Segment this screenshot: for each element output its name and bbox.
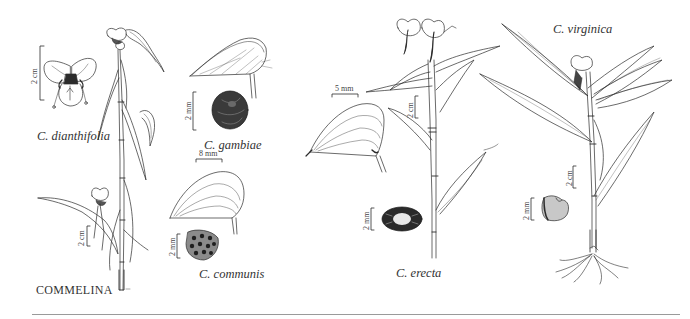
scale-erecta-spathe: 5 mm: [335, 85, 353, 93]
scale-dianthifolia-flower: 2 cm: [31, 68, 39, 84]
gambiae-seed-drawing: [193, 91, 248, 130]
species-label-virginica: C. virginica: [553, 23, 612, 36]
scale-communis-seed: 2 mm: [169, 238, 177, 256]
scale-erecta-plant: 2 cm: [407, 102, 415, 118]
bottom-divider: [32, 314, 680, 315]
gambiae-spathe-drawing: [190, 38, 272, 98]
dianthifolia-plant-drawing: [38, 28, 164, 290]
communis-spathe-drawing: [170, 159, 244, 234]
erecta-plant-scale: [415, 96, 418, 118]
dianthifolia-plant-scale: [87, 226, 90, 246]
virginica-plant-drawing: [480, 24, 672, 284]
communis-seed-drawing: [177, 230, 218, 260]
erecta-spathe-drawing: [306, 94, 386, 172]
species-label-erecta: C. erecta: [396, 267, 441, 280]
botanical-plate: C. dianthifolia C. gambiae C. communis C…: [0, 0, 690, 319]
genus-label: COMMELINA: [36, 284, 113, 296]
scale-gambiae-seed: 2 mm: [185, 102, 193, 120]
species-label-communis: C. communis: [199, 268, 264, 281]
erecta-seed-drawing: [371, 207, 422, 231]
scale-virginica-plant: 2 cm: [566, 170, 574, 186]
virginica-seed-drawing: [531, 196, 569, 221]
scale-communis-spathe: 8 mm: [199, 150, 217, 158]
scale-erecta-seed: 2 mm: [363, 212, 371, 230]
scale-virginica-seed: 2 mm: [523, 202, 531, 220]
species-label-dianthifolia: C. dianthifolia: [37, 130, 110, 143]
dianthifolia-flower-drawing: [40, 46, 96, 108]
illustration-drawings: [0, 0, 690, 319]
scale-dianthifolia-plant: 2 cm: [78, 230, 86, 246]
